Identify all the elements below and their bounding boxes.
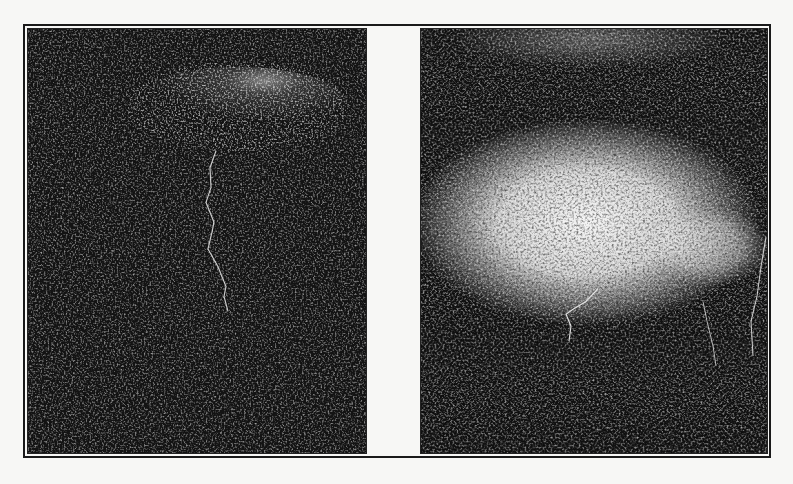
left-image-panel xyxy=(28,29,366,453)
left-noise-image xyxy=(28,29,366,453)
right-image-panel xyxy=(421,29,767,453)
figure-frame xyxy=(23,24,771,458)
right-noise-image xyxy=(421,29,767,453)
